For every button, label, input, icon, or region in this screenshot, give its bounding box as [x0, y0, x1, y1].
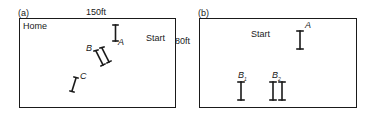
double-i-beam-icon	[94, 47, 111, 66]
i-beam-icon	[238, 82, 244, 100]
i-beam-icon	[113, 25, 118, 41]
double-i-beam-icon	[270, 82, 285, 100]
i-beam-icon	[70, 77, 78, 92]
i-beam-icon	[297, 31, 303, 49]
marker-glyphs	[0, 0, 375, 116]
